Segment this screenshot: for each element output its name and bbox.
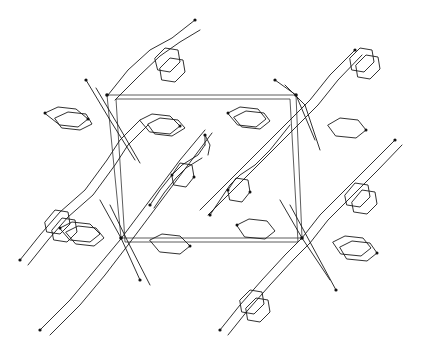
unit-cell (107, 95, 302, 242)
molecule-chain-upper-left (40, 20, 212, 335)
packing-diagram (0, 0, 423, 354)
central-molecule (150, 125, 290, 215)
crystal-packing-figure (0, 0, 423, 354)
